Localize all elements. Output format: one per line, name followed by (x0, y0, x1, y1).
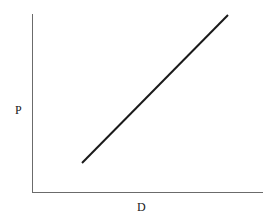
x-axis-label: D (137, 201, 146, 213)
chart-plot-area (0, 0, 274, 222)
chart-background (0, 0, 274, 222)
chart-figure: P D (0, 0, 274, 222)
y-axis-label: P (15, 104, 22, 116)
